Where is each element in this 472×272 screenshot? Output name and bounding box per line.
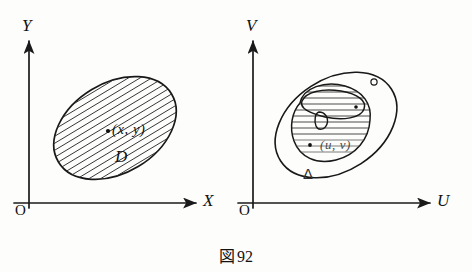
region-d-label: D — [115, 148, 127, 165]
figure-caption: 図92 — [0, 243, 472, 267]
figure-92: Y X O (x, y) D V U O (u, v) Δ 図92 — [0, 0, 472, 272]
origin-label-uv: O — [239, 203, 250, 218]
figure-caption-symbol: 図 — [219, 248, 237, 265]
region-delta-inner-loop — [315, 112, 328, 129]
point-xy-label: (x, y) — [112, 122, 145, 137]
panel-xy-axes — [14, 41, 196, 208]
x-axis-label: X — [203, 192, 213, 209]
uv-boundary-marker-circle — [371, 79, 377, 85]
uv-outer-boundary — [256, 50, 417, 199]
y-axis-label: Y — [22, 17, 31, 34]
panel-uv-axes — [238, 41, 430, 208]
figure-caption-number: 92 — [237, 248, 253, 265]
region-delta-node-dot — [354, 105, 358, 109]
region-delta-label: Δ — [303, 166, 313, 181]
figure-drawing-canvas — [0, 0, 472, 272]
u-axis-label: U — [437, 192, 449, 209]
point-xy-marker — [106, 129, 110, 133]
point-uv-marker — [308, 143, 312, 147]
origin-label-xy: O — [15, 203, 26, 218]
point-uv-label: (u, v) — [320, 138, 351, 151]
uv-outer-curve — [256, 50, 417, 199]
v-axis-label: V — [246, 17, 256, 34]
